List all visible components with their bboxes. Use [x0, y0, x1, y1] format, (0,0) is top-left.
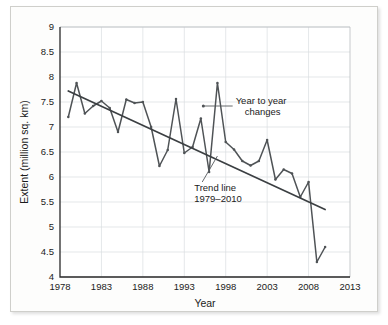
- y-axis-tick-label: 5: [49, 221, 54, 232]
- data-point: [200, 117, 203, 120]
- y-axis-tick-label: 8.5: [41, 46, 54, 57]
- data-point: [117, 131, 120, 134]
- y-axis-tick-label: 5.5: [41, 196, 54, 207]
- y-axis-tick-label: 9: [49, 21, 54, 32]
- y-axis-title: Extent (million sq. km): [18, 100, 30, 203]
- data-point: [324, 246, 327, 249]
- figure-container: 44.555.566.577.588.591978198319881993199…: [0, 0, 388, 325]
- y-axis-tick-label: 8: [49, 71, 54, 82]
- data-point: [75, 82, 78, 85]
- y-axis-tick-label: 7: [49, 121, 54, 132]
- data-point: [316, 261, 319, 264]
- x-axis-tick-label: 1988: [132, 281, 153, 292]
- data-point: [233, 148, 236, 151]
- x-axis-tick-label: 2008: [298, 281, 319, 292]
- data-point: [92, 105, 95, 108]
- data-point: [274, 178, 277, 181]
- data-point: [142, 101, 145, 104]
- data-point: [183, 152, 186, 155]
- x-axis-tick-label: 1998: [215, 281, 236, 292]
- data-point: [249, 164, 252, 167]
- data-point: [175, 98, 178, 101]
- y-axis-tick-label: 6: [49, 171, 54, 182]
- x-axis-tick-label: 1978: [49, 281, 70, 292]
- data-point: [266, 139, 269, 142]
- data-point: [307, 181, 310, 184]
- x-axis-tick-label: 2003: [257, 281, 278, 292]
- data-point: [125, 98, 128, 101]
- annotation-leader-dot: [202, 105, 205, 108]
- data-point: [100, 100, 103, 103]
- sea-ice-extent-line-chart: 44.555.566.577.588.591978198319881993199…: [0, 0, 388, 325]
- data-point: [133, 102, 136, 105]
- x-axis-title: Year: [194, 297, 216, 309]
- data-point: [258, 160, 261, 163]
- y-axis-tick-label: 6.5: [41, 146, 54, 157]
- data-point: [84, 112, 87, 115]
- annotation-trend-line-label: Trend line1979–2010: [194, 182, 242, 204]
- data-point: [150, 126, 153, 129]
- x-axis-tick-label: 2013: [339, 281, 360, 292]
- x-axis-tick-label: 1983: [91, 281, 112, 292]
- data-point: [282, 168, 285, 171]
- data-point: [67, 116, 70, 119]
- y-axis-tick-label: 7.5: [41, 96, 54, 107]
- data-point: [224, 141, 227, 144]
- y-axis-tick-label: 4.5: [41, 246, 54, 257]
- data-point: [241, 160, 244, 163]
- x-axis-tick-label: 1993: [174, 281, 195, 292]
- data-point: [291, 172, 294, 175]
- data-point: [158, 165, 161, 168]
- data-point: [166, 149, 169, 152]
- data-point: [216, 82, 219, 85]
